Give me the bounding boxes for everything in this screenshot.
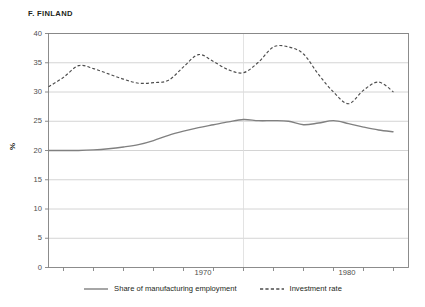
solid-line-swatch-icon (83, 285, 109, 293)
legend-label-investment-rate: Investment rate (290, 284, 342, 293)
y-tick-label-30: 30 (18, 87, 42, 96)
y-tick-label-40: 40 (18, 29, 42, 38)
y-tick-label-20: 20 (18, 146, 42, 155)
y-tick-label-15: 15 (18, 175, 42, 184)
series-line-investment-rate (49, 46, 394, 104)
y-tick-label-35: 35 (18, 58, 42, 67)
gridlines (49, 34, 409, 239)
chart-figure: F. FINLAND % 4035302520151050 1970 1980 … (0, 0, 425, 307)
y-tick-label-25: 25 (18, 116, 42, 125)
x-tick-label-1980: 1980 (327, 268, 367, 277)
x-tick-label-1970: 1970 (183, 268, 223, 277)
y-tick-label-10: 10 (18, 204, 42, 213)
legend-label-share-of-manufacturing-employment: Share of manufacturing employment (114, 284, 236, 293)
series-line-share-of-manufacturing-employment (49, 119, 394, 150)
legend-item-investment-rate[interactable]: Investment rate (259, 284, 342, 293)
data-series-layer (49, 46, 394, 151)
legend-item-share-of-manufacturing-employment[interactable]: Share of manufacturing employment (83, 284, 236, 293)
y-tick-label-5: 5 (18, 233, 42, 242)
chart-legend: Share of manufacturing employment Invest… (0, 284, 425, 293)
plot-area (0, 0, 425, 307)
y-axis-ticks (45, 34, 49, 268)
dashed-line-swatch-icon (259, 285, 285, 293)
y-tick-label-0: 0 (18, 263, 42, 272)
